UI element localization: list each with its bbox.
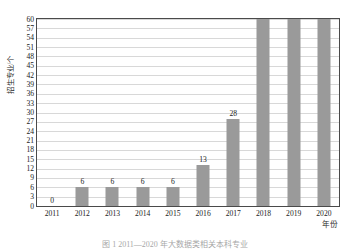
x-axis-tick-label: 2013 [105,208,120,219]
bar-slot: 6 [158,19,188,206]
bar-slot: 6 [67,19,97,206]
y-axis-title: 招生专业/个 [2,28,16,120]
y-axis-tick-label: 15 [26,155,34,164]
y-axis-tick-labels: 03691215182124273033363942454851545760 [16,14,34,207]
bar-slot: 6 [97,19,127,206]
y-axis-title-text: 招生专业/个 [4,55,15,93]
bar-slot: 61 [279,19,309,206]
bar-value-label: 0 [50,196,54,205]
y-axis-tick-label: 18 [26,145,34,154]
y-axis-tick-label: 42 [26,71,34,80]
bar-slot: 0 [37,19,67,206]
y-axis-tick-label: 33 [26,99,34,108]
y-axis-tick-label: 3 [30,192,34,201]
x-axis-tick-label: 2016 [196,208,211,219]
y-axis-tick-label: 54 [26,33,34,42]
y-axis-tick-label: 57 [26,24,34,33]
bar-slot: 13 [188,19,218,206]
y-axis-tick-label: 30 [26,108,34,117]
y-axis-tick-label: 21 [26,136,34,145]
x-axis-tick-label: 2014 [135,208,150,219]
y-axis-tick-label: 45 [26,61,34,70]
bar-slot: 6 [128,19,158,206]
bar-slot: 28 [218,19,248,206]
bar-chart-figure: 招生专业/个 036912151821242730333639424548515… [0,0,350,249]
x-axis-tick-label: 2020 [316,208,331,219]
bar[interactable] [317,18,330,206]
y-axis-tick-label: 27 [26,117,34,126]
figure-caption: 图 1 2011—2020 年大数据类相关本科专业 [0,240,350,249]
y-axis-tick-label: 9 [30,173,34,182]
bar-value-label: 28 [229,109,237,118]
x-axis-tick-label: 2017 [226,208,241,219]
bar-value-label: 6 [80,177,84,186]
bar-series: 066661328606161 [37,19,339,206]
y-axis-tick-label: 48 [26,52,34,61]
y-axis-tick-label: 12 [26,164,34,173]
y-axis-tick-label: 0 [30,202,34,211]
bar-value-label: 6 [111,177,115,186]
x-axis-tick-label: 2015 [165,208,180,219]
x-axis-tick-labels: 2011201220132014201520162017201820192020 [36,208,340,220]
bar[interactable] [287,18,300,206]
bar[interactable] [227,119,240,206]
bar[interactable] [136,187,149,206]
y-axis-tick-label: 39 [26,80,34,89]
bar-value-label: 13 [199,155,207,164]
x-axis-tick-label: 2019 [286,208,301,219]
x-axis-title: 年份 [322,220,338,230]
bar[interactable] [257,19,270,206]
x-axis-tick-label: 2011 [45,208,60,219]
bar[interactable] [76,187,89,206]
x-axis-tick-label: 2012 [75,208,90,219]
y-axis-tick-label: 24 [26,127,34,136]
bar[interactable] [197,165,210,206]
plot-area: 066661328606161 [36,18,340,207]
y-axis-tick-label: 51 [26,43,34,52]
x-axis-tick-label: 2018 [256,208,271,219]
bar-slot: 61 [309,19,339,206]
bar-value-label: 6 [141,177,145,186]
y-axis-tick-label: 60 [26,15,34,24]
bar[interactable] [166,187,179,206]
bar[interactable] [106,187,119,206]
bar-slot: 60 [248,19,278,206]
y-axis-tick-label: 36 [26,89,34,98]
bar-value-label: 6 [171,177,175,186]
y-axis-tick-label: 6 [30,183,34,192]
